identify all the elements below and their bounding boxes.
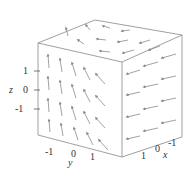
y-axis-label: y <box>67 157 73 168</box>
plot-box <box>38 20 182 157</box>
z-tick-1: 1 <box>23 65 28 76</box>
vector-field-plot: 1 0 -1 z -1 0 1 y -1 0 1 x <box>0 0 191 177</box>
y-axis: -1 0 1 y <box>45 146 95 168</box>
y-tick-1: 1 <box>90 151 95 162</box>
y-tick-neg1: -1 <box>45 146 53 157</box>
z-axis-label: z <box>8 84 13 95</box>
vector-arrows-left-face <box>48 55 108 150</box>
z-tick-0: 0 <box>23 84 28 95</box>
z-tick-neg1: -1 <box>15 103 23 114</box>
vector-arrows-right-face <box>127 54 176 139</box>
x-axis-label: x <box>162 149 168 160</box>
z-axis: 1 0 -1 z <box>8 65 40 114</box>
vector-arrows-top-face <box>66 25 160 53</box>
x-tick-1: 1 <box>141 150 146 161</box>
x-tick-0: 0 <box>155 143 160 154</box>
x-tick-neg1: -1 <box>168 137 176 148</box>
